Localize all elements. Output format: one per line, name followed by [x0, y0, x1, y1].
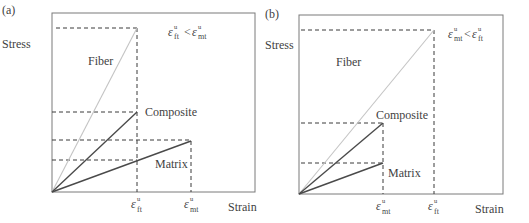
panel-b-tick-mt: ε u mt: [376, 197, 391, 216]
svg-text:mt: mt: [198, 32, 207, 41]
svg-text:ft: ft: [137, 205, 143, 214]
svg-text:ft: ft: [434, 207, 440, 216]
panel-a-label: (a): [2, 3, 15, 17]
panel-b-condition: ε u mt < ε u ft: [448, 25, 484, 43]
panel-a-tick-mt: ε u mt: [184, 195, 199, 214]
panel-b-label: (b): [265, 7, 279, 21]
panel-a-xlabel: Strain: [228, 200, 257, 214]
svg-text:u: u: [190, 195, 194, 202]
svg-text:ε: ε: [192, 25, 197, 39]
svg-text:<: <: [464, 27, 471, 41]
svg-text:u: u: [137, 195, 141, 202]
panel-b-fiber-label: Fiber: [336, 55, 361, 69]
svg-text:u: u: [382, 197, 386, 204]
panel-b-matrix-label: Matrix: [388, 166, 421, 180]
panel-a-composite-line: [52, 112, 137, 192]
svg-text:mt: mt: [382, 207, 391, 216]
svg-text:ε: ε: [131, 197, 136, 211]
panel-a-fiber-label: Fiber: [88, 54, 113, 68]
svg-text:ε: ε: [448, 27, 453, 41]
panel-b: (b) Stress Fiber Composite Matrix ε u mt…: [265, 7, 504, 216]
panel-b-xlabel: Strain: [475, 202, 504, 216]
svg-text:u: u: [434, 197, 438, 204]
panel-a-fiber-line: [52, 28, 137, 192]
panel-a-tick-ft: ε u ft: [131, 195, 143, 214]
svg-text:u: u: [198, 23, 202, 30]
svg-text:ε: ε: [168, 25, 173, 39]
panel-a-condition: ε u ft < ε u mt: [168, 23, 207, 41]
panel-a-matrix-label: Matrix: [155, 157, 188, 171]
panel-b-composite-label: Composite: [376, 108, 428, 122]
svg-text:ε: ε: [472, 27, 477, 41]
panel-b-composite-line: [299, 123, 383, 194]
svg-text:<: <: [184, 25, 191, 39]
svg-text:ε: ε: [184, 197, 189, 211]
svg-text:ε: ε: [428, 199, 433, 213]
svg-text:ft: ft: [174, 32, 180, 41]
svg-text:u: u: [454, 25, 458, 32]
svg-text:mt: mt: [454, 34, 463, 43]
panel-b-ylabel: Stress: [265, 38, 294, 52]
stress-strain-figure: (a) Stress Fiber Composite Matrix ε u ft…: [0, 0, 529, 223]
panel-a: (a) Stress Fiber Composite Matrix ε u ft…: [2, 3, 257, 214]
svg-text:mt: mt: [190, 205, 199, 214]
svg-text:ft: ft: [478, 34, 484, 43]
panel-a-frame: [52, 13, 255, 192]
svg-text:u: u: [478, 25, 482, 32]
panel-a-composite-label: Composite: [145, 105, 197, 119]
svg-text:u: u: [174, 23, 178, 30]
svg-text:ε: ε: [376, 199, 381, 213]
panel-b-tick-ft: ε u ft: [428, 197, 440, 216]
panel-a-ylabel: Stress: [2, 37, 31, 51]
